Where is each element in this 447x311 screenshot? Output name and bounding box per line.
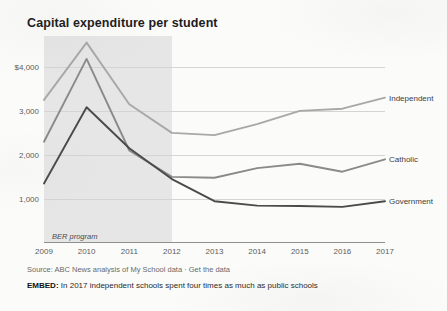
x-tick-label-2009: 2009 (35, 247, 53, 256)
series-inline-labels: IndependentCatholicGovernment (389, 36, 447, 243)
series-label-government: Government (389, 197, 433, 206)
x-tick-label-2012: 2012 (163, 247, 181, 256)
x-tick-label-2013: 2013 (206, 247, 224, 256)
embed-line: EMBED: In 2017 independent schools spent… (27, 281, 427, 290)
y-tick-label-3000: 3,000 (19, 106, 39, 115)
y-tick-label-2000: 2,000 (19, 150, 39, 159)
plot-area (44, 36, 385, 243)
series-label-catholic: Catholic (389, 155, 418, 164)
source-text: Source: ABC News analysis of My School d… (27, 265, 182, 274)
series-line-catholic (44, 59, 385, 178)
get-the-data-link[interactable]: Get the data (189, 265, 230, 274)
y-axis-tick-labels: $4,0003,0002,0001,000 (0, 36, 44, 243)
ber-program-annotation-label: BER program (52, 232, 97, 241)
series-lines (44, 36, 385, 243)
x-tick-label-2017: 2017 (376, 247, 394, 256)
chart-footer: Source: ABC News analysis of My School d… (27, 265, 427, 290)
x-tick-label-2010: 2010 (78, 247, 96, 256)
embed-key-label: EMBED: (27, 281, 59, 290)
embed-description: In 2017 independent schools spent four t… (59, 281, 318, 290)
y-tick-label-1000: 1,000 (19, 195, 39, 204)
series-line-independent (44, 43, 385, 136)
x-axis-tick-labels: 200920102011201220132014201520162017 (44, 247, 385, 261)
y-tick-label-4000: $4,000 (15, 62, 39, 71)
x-tick-label-2014: 2014 (248, 247, 266, 256)
series-line-government (44, 107, 385, 207)
source-separator: · (182, 265, 189, 274)
x-tick-label-2015: 2015 (291, 247, 309, 256)
x-tick-label-2011: 2011 (121, 247, 138, 256)
series-label-independent: Independent (389, 93, 434, 102)
source-line: Source: ABC News analysis of My School d… (27, 265, 427, 274)
page-title: Capital expenditure per student (27, 16, 218, 30)
chart-card: Capital expenditure per student $4,0003,… (0, 0, 447, 311)
x-tick-label-2016: 2016 (333, 247, 351, 256)
